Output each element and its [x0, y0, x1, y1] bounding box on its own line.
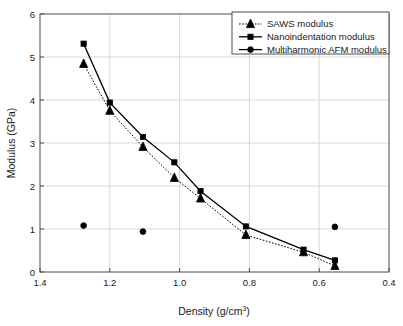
x-axis-label-tail: )	[246, 305, 250, 317]
y-tick-label: 5	[30, 52, 35, 63]
data-marker-square	[172, 160, 177, 165]
data-marker-square	[107, 100, 112, 105]
y-tick-label: 1	[30, 224, 35, 235]
data-marker-square	[301, 247, 306, 252]
x-tick-label: 1.4	[33, 277, 46, 288]
data-marker-square	[140, 134, 145, 139]
y-tick-label: 3	[30, 138, 35, 149]
x-axis-label: Density (g/cm3)	[178, 305, 249, 317]
y-tick-label: 4	[30, 95, 35, 106]
legend-marker-square	[248, 34, 253, 39]
x-axis-label-base: Density (g/cm	[178, 305, 242, 317]
data-marker-circle	[332, 224, 338, 230]
y-tick-label: 6	[30, 9, 35, 20]
x-tick-label: 0.8	[243, 277, 256, 288]
x-tick-label: 1.0	[173, 277, 186, 288]
data-marker-circle	[140, 229, 146, 235]
data-marker-circle	[81, 223, 87, 229]
y-tick-label: 2	[30, 181, 35, 192]
x-tick-label: 0.4	[382, 277, 395, 288]
y-tick-label: 0	[30, 267, 35, 278]
x-axis-tick-labels: 1.41.21.00.80.60.4	[33, 277, 395, 288]
data-marker-square	[81, 41, 86, 46]
data-marker-square	[332, 258, 337, 263]
chart-figure: 1.41.21.00.80.60.4 0123456 Modulus (GPa)…	[0, 0, 403, 326]
y-axis-tick-labels: 0123456	[30, 9, 35, 278]
data-marker-square	[198, 189, 203, 194]
modulus-vs-density-chart: 1.41.21.00.80.60.4 0123456 Modulus (GPa)…	[0, 0, 403, 326]
x-tick-label: 0.6	[313, 277, 326, 288]
legend-label: SAWS modulus	[267, 18, 333, 29]
legend-marker-circle	[248, 47, 254, 53]
x-tick-label: 1.2	[103, 277, 116, 288]
legend-label: Nanoindentation modulus	[267, 31, 375, 42]
chart-legend: SAWS modulusNanoindentation modulusMulti…	[232, 12, 389, 55]
data-marker-square	[243, 224, 248, 229]
y-axis-label: Modulus (GPa)	[5, 108, 17, 179]
legend-label: Multiharmonic AFM modulus	[267, 44, 387, 55]
